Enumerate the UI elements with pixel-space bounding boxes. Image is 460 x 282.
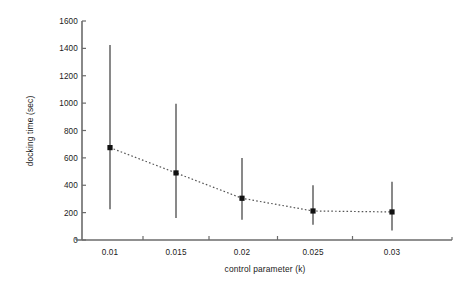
data-point-marker	[389, 209, 394, 214]
errorbar-plot: 02004006008001000120014001600 0.010.0150…	[0, 0, 460, 282]
y-tick-label: 600	[64, 154, 78, 163]
y-tick-label: 1000	[59, 99, 78, 108]
y-tick-label: 1200	[59, 72, 78, 81]
x-axis-title: control parameter (k)	[225, 264, 306, 274]
x-tick-label: 0.03	[384, 248, 401, 257]
x-tick-label: 0.02	[234, 248, 251, 257]
y-tick-label: 400	[64, 181, 78, 190]
y-tick-label: 1600	[59, 17, 78, 26]
y-tick-label: 200	[64, 209, 78, 218]
y-tick-label: 800	[64, 127, 78, 136]
data-point-marker	[310, 208, 315, 213]
y-axis: 02004006008001000120014001600	[59, 17, 86, 245]
data-point-marker	[107, 145, 112, 150]
chart-figure: 02004006008001000120014001600 0.010.0150…	[0, 0, 460, 282]
y-tick-label: 1400	[59, 44, 78, 53]
x-tick-label: 0.015	[165, 248, 187, 257]
y-axis-title: docking time (sec)	[25, 96, 35, 167]
data-point-marker	[239, 196, 244, 201]
data-point-marker	[173, 170, 178, 175]
x-tick-label: 0.025	[302, 248, 324, 257]
x-tick-label: 0.01	[102, 248, 119, 257]
